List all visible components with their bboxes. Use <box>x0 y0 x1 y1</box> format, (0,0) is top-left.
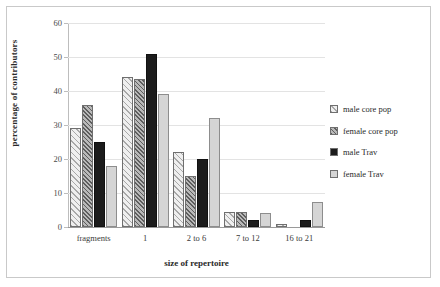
y-axis-tick-label: 40 <box>36 87 62 96</box>
bar-chart: percentage of contributors 0102030405060… <box>0 0 440 287</box>
bar <box>146 54 157 227</box>
y-axis-tick-label: 0 <box>36 223 62 232</box>
bar <box>276 224 287 227</box>
bar <box>185 176 196 227</box>
x-axis-line <box>68 227 325 228</box>
plot-area <box>68 23 325 227</box>
bar <box>158 94 169 227</box>
legend-swatch-icon <box>330 148 338 156</box>
legend-item: male core pop <box>330 104 434 114</box>
bar <box>209 118 220 227</box>
bar-group <box>276 23 323 227</box>
y-axis-tick-mark <box>64 193 68 194</box>
bar-group <box>224 23 271 227</box>
x-axis-tick-label: 1 <box>119 233 170 243</box>
bar <box>106 166 117 227</box>
y-axis-tick-mark <box>64 159 68 160</box>
bar <box>248 220 259 227</box>
x-axis-tick-label: 16 to 21 <box>274 233 325 243</box>
y-axis-tick-mark <box>64 227 68 228</box>
bar-group <box>173 23 220 227</box>
y-axis-tick-label: 60 <box>36 19 62 28</box>
legend-item: male Trav <box>330 147 434 157</box>
bar <box>224 212 235 227</box>
bar <box>300 220 311 227</box>
x-axis-tick-label: 2 to 6 <box>171 233 222 243</box>
x-axis-tick-label: 7 to 12 <box>222 233 273 243</box>
bar <box>197 159 208 227</box>
bar <box>260 213 271 227</box>
y-axis-tick-label: 20 <box>36 155 62 164</box>
legend-swatch-icon <box>330 127 338 135</box>
bar <box>236 212 247 227</box>
x-axis-label: size of repertoire <box>68 258 325 268</box>
bar <box>122 77 133 227</box>
legend-label: male core pop <box>343 104 391 114</box>
legend: male core popfemale core popmale Travfem… <box>330 104 434 190</box>
legend-swatch-icon <box>330 170 338 178</box>
y-axis-tick-mark <box>64 125 68 126</box>
bar <box>70 128 81 227</box>
y-axis-tick-mark <box>64 57 68 58</box>
y-axis-label: percentage of contributors <box>9 3 19 183</box>
y-axis-tick-labels: 0102030405060 <box>34 0 62 287</box>
y-axis-tick-label: 30 <box>36 121 62 130</box>
legend-label: female core pop <box>343 126 398 136</box>
bar <box>173 152 184 227</box>
legend-item: female Trav <box>330 169 434 179</box>
x-axis-tick-label: fragments <box>68 233 119 243</box>
bar <box>94 142 105 227</box>
bar-group <box>122 23 169 227</box>
legend-label: female Trav <box>343 169 384 179</box>
y-axis-tick-label: 10 <box>36 189 62 198</box>
legend-swatch-icon <box>330 105 338 113</box>
y-axis-tick-label: 50 <box>36 53 62 62</box>
y-axis-tick-mark <box>64 23 68 24</box>
bar-group <box>70 23 117 227</box>
bar <box>134 79 145 227</box>
bar <box>82 105 93 227</box>
legend-item: female core pop <box>330 126 434 136</box>
bar <box>312 202 323 228</box>
legend-label: male Trav <box>343 147 377 157</box>
y-axis-tick-mark <box>64 91 68 92</box>
